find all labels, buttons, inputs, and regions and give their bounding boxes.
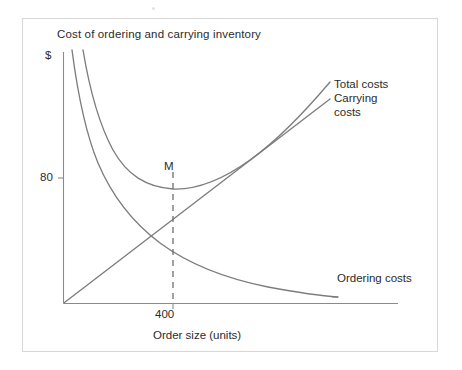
minimum-point-marker-label: M — [164, 160, 174, 174]
series-label-total-costs: Total costs — [334, 78, 388, 92]
series-label-ordering-costs: Ordering costs — [337, 272, 412, 286]
total-costs-curve — [83, 50, 330, 189]
y-axis-unit-label: $ — [45, 49, 51, 63]
carrying-costs-line — [65, 99, 331, 303]
figure-root: Cost of ordering and carrying inventory … — [0, 0, 462, 370]
x-axis-tick-label-400: 400 — [155, 308, 174, 322]
series-label-carrying-line1: Carrying — [334, 92, 377, 104]
ordering-costs-curve — [72, 50, 338, 297]
chart-title: Cost of ordering and carrying inventory — [57, 28, 261, 42]
series-label-carrying-costs: Carrying costs — [334, 92, 377, 119]
x-axis-title: Order size (units) — [153, 329, 241, 343]
y-axis-tick-label-80: 80 — [40, 171, 53, 185]
chart-plot-area — [0, 0, 462, 370]
series-label-carrying-line2: costs — [334, 106, 361, 118]
